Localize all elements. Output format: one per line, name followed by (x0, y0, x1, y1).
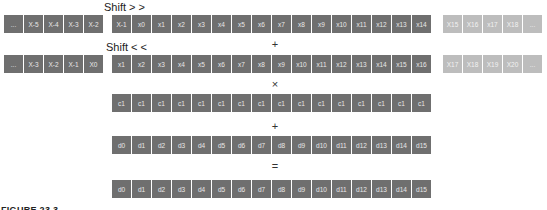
array-cell-outside: X19 (483, 55, 502, 73)
array-cell: x5 (232, 15, 251, 33)
array-cell: X-1 (112, 15, 131, 33)
array-cell: x4 (172, 55, 191, 73)
array-cell: x10 (332, 15, 351, 33)
d-cell: d9 (292, 136, 311, 154)
coefficient-cell: c1 (292, 94, 311, 112)
array-cell: x11 (352, 15, 371, 33)
d-cell: d12 (352, 136, 371, 154)
array-cell: ... (4, 15, 23, 33)
array-cell: x4 (212, 15, 231, 33)
d-cell: d11 (332, 136, 351, 154)
array-cell: x13 (392, 15, 411, 33)
d-cell: d8 (272, 136, 291, 154)
shift-right-left-group: ...X-5X-4X-3X-2 (4, 15, 103, 33)
shift-left-right-group: X17X18X19X20... (443, 55, 542, 73)
d-input-row: d0d1d2d3d4d5d6d7d8d9d10d11d12d13d14d15 (112, 136, 431, 154)
coefficient-cell: c1 (412, 94, 431, 112)
d-cell: d3 (172, 136, 191, 154)
array-cell: x13 (352, 55, 371, 73)
array-cell: X0 (84, 55, 103, 73)
d-cell: d13 (372, 136, 391, 154)
array-cell: x14 (412, 15, 431, 33)
result-cell: d8 (272, 180, 291, 198)
array-cell: x3 (152, 55, 171, 73)
coefficient-cell: c1 (112, 94, 131, 112)
coefficient-cell: c1 (392, 94, 411, 112)
array-cell: X-2 (84, 15, 103, 33)
array-cell: x2 (132, 55, 151, 73)
result-cell: d13 (372, 180, 391, 198)
shift-right-label: Shift > > (104, 1, 145, 13)
array-cell: x12 (372, 15, 391, 33)
result-cell: d2 (152, 180, 171, 198)
d-cell: d10 (312, 136, 331, 154)
array-cell: x3 (192, 15, 211, 33)
d-cell: d7 (252, 136, 271, 154)
array-cell-outside: X16 (463, 15, 482, 33)
shift-right-right-group: X15X16x17X18... (443, 15, 542, 33)
array-cell: x8 (252, 55, 271, 73)
coefficient-cell: c1 (212, 94, 231, 112)
result-cell: d0 (112, 180, 131, 198)
array-cell-outside: x17 (483, 15, 502, 33)
array-cell-outside: ... (523, 15, 542, 33)
array-cell: x14 (372, 55, 391, 73)
figure-caption: FIGURE 23.3 (1, 205, 58, 210)
result-cell: d14 (392, 180, 411, 198)
array-cell: x5 (192, 55, 211, 73)
array-cell: x2 (172, 15, 191, 33)
array-cell: x8 (292, 15, 311, 33)
coefficient-cell: c1 (192, 94, 211, 112)
array-cell: x10 (292, 55, 311, 73)
array-cell-outside: X17 (443, 55, 462, 73)
result-cell: d6 (232, 180, 251, 198)
shift-left-main-group: x1x2x3x4x5x6x7x8x9x10x11x12x13x14x15x16 (112, 55, 431, 73)
result-cell: d11 (332, 180, 351, 198)
array-cell: X-2 (44, 55, 63, 73)
coefficient-cell: c1 (272, 94, 291, 112)
array-cell: x0 (132, 15, 151, 33)
array-cell: x11 (312, 55, 331, 73)
array-cell-outside: X20 (503, 55, 522, 73)
array-cell: X-4 (44, 15, 63, 33)
coefficient-cell: c1 (332, 94, 351, 112)
array-cell: x15 (392, 55, 411, 73)
array-cell: x16 (412, 55, 431, 73)
coefficient-cell: c1 (352, 94, 371, 112)
array-cell: x12 (332, 55, 351, 73)
coefficient-cell: c1 (312, 94, 331, 112)
array-cell: x7 (232, 55, 251, 73)
coefficient-cell: c1 (132, 94, 151, 112)
d-cell: d14 (392, 136, 411, 154)
result-cell: d4 (192, 180, 211, 198)
array-cell: X-5 (24, 15, 43, 33)
array-cell: X-3 (64, 15, 83, 33)
array-cell-outside: ... (523, 55, 542, 73)
d-cell: d0 (112, 136, 131, 154)
shift-left-left-group: ...X-3X-2X-1X0 (4, 55, 103, 73)
times-operator: × (265, 78, 285, 90)
array-cell: x6 (252, 15, 271, 33)
d-cell: d15 (412, 136, 431, 154)
equals-operator: = (265, 160, 285, 172)
coefficient-cell: c1 (372, 94, 391, 112)
coefficient-cell: c1 (172, 94, 191, 112)
coefficient-cell: c1 (152, 94, 171, 112)
result-cell: d7 (252, 180, 271, 198)
d-cell: d4 (192, 136, 211, 154)
array-cell: ... (4, 55, 23, 73)
result-cell: d5 (212, 180, 231, 198)
array-cell-outside: X18 (463, 55, 482, 73)
array-cell: x1 (152, 15, 171, 33)
d-output-row: d0d1d2d3d4d5d6d7d8d9d10d11d12d13d14d15 (112, 180, 431, 198)
plus-operator: + (265, 38, 285, 50)
result-cell: d9 (292, 180, 311, 198)
coefficient-cell: c1 (232, 94, 251, 112)
plus-operator-2: + (265, 120, 285, 132)
array-cell: x9 (312, 15, 331, 33)
array-cell-outside: X18 (503, 15, 522, 33)
d-cell: d1 (132, 136, 151, 154)
shift-left-label: Shift < < (106, 41, 147, 53)
array-cell: x1 (112, 55, 131, 73)
array-cell: x6 (212, 55, 231, 73)
